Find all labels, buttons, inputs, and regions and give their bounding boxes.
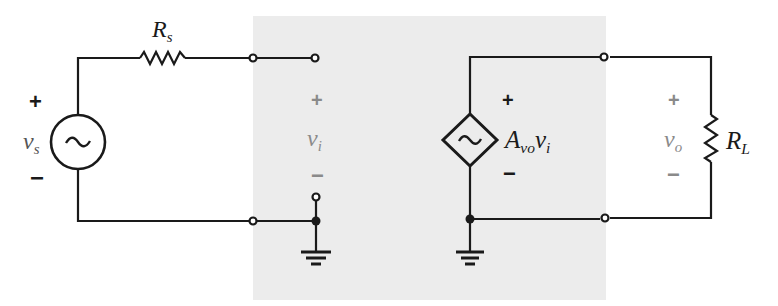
rl-sub: L (741, 140, 750, 157)
source-label-sub: s (34, 141, 40, 157)
wire-load (610, 57, 711, 115)
avo-tail-sub: i (546, 139, 550, 156)
terminal-output-bottom (602, 215, 609, 222)
source-minus: − (30, 166, 44, 190)
circuit-diagram: + vs − Rs + vi − + Avovi − + vo − RL (0, 0, 778, 306)
input-label: vi (307, 125, 322, 155)
load-resistor-icon (705, 115, 717, 162)
terminal-source-top (250, 55, 257, 62)
avo-tail: v (535, 126, 546, 153)
vo-main: v (664, 126, 675, 152)
cs-label: Avovi (505, 126, 550, 157)
output-minus: − (667, 164, 680, 186)
rs-sub: s (167, 29, 173, 45)
wire-source-bottom (78, 169, 250, 221)
avo-main: A (505, 126, 520, 153)
terminal-input-top (312, 55, 319, 62)
wire-source-top (78, 58, 140, 115)
circuit-schematic (0, 0, 778, 306)
vi-sub: i (318, 138, 322, 154)
input-plus: + (311, 90, 323, 110)
avo-sub: vo (520, 139, 535, 156)
cs-plus: + (502, 90, 514, 110)
load-resistor-label: RL (726, 127, 750, 158)
source-plus: + (29, 91, 42, 113)
rl-main: R (726, 127, 741, 154)
source-label-main: v (23, 128, 34, 154)
output-label: vo (664, 126, 682, 156)
cs-minus: − (503, 163, 516, 185)
rs-main: R (152, 16, 167, 42)
vi-main: v (307, 125, 318, 151)
output-plus: + (668, 90, 680, 110)
input-minus: − (311, 165, 324, 187)
source-label: vs (23, 128, 39, 158)
junction-output (466, 215, 475, 224)
source-resistor-icon (140, 52, 185, 64)
vo-sub: o (675, 139, 682, 155)
terminal-output-top (601, 54, 608, 61)
terminal-source-bottom (250, 218, 257, 225)
junction-input (312, 217, 321, 226)
terminal-input-bottom (313, 194, 320, 201)
source-resistor-label: Rs (152, 16, 172, 46)
